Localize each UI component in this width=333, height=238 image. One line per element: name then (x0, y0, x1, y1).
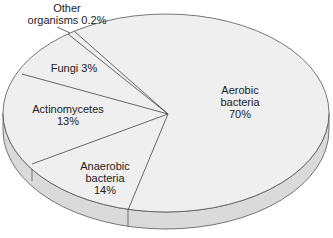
label-actino: Actinomycetes 13% (18, 103, 118, 127)
label-aerobic-line3: 70% (210, 108, 270, 120)
label-aerobic-line1: Aerobic (210, 84, 270, 96)
label-aerobic-line2: bacteria (210, 96, 270, 108)
label-anaerobic: Anaerobic bacteria 14% (70, 160, 140, 196)
label-other-line2: organisms 0.2% (22, 14, 112, 26)
label-anaerobic-line2: bacteria (70, 172, 140, 184)
label-fungi-line1: Fungi 3% (44, 62, 104, 74)
label-fungi: Fungi 3% (44, 62, 104, 74)
label-other: Other organisms 0.2% (22, 2, 112, 26)
label-aerobic: Aerobic bacteria 70% (210, 84, 270, 120)
leader-line-other (57, 27, 70, 33)
label-actino-line1: Actinomycetes (18, 103, 118, 115)
label-actino-line2: 13% (18, 115, 118, 127)
label-anaerobic-line3: 14% (70, 184, 140, 196)
label-anaerobic-line1: Anaerobic (70, 160, 140, 172)
label-other-line1: Other (22, 2, 112, 14)
